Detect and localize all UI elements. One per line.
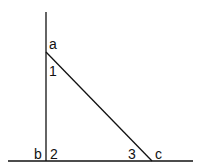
angle-label-2: 2 (50, 146, 58, 162)
point-label-c: c (155, 146, 162, 162)
angle-label-3: 3 (128, 146, 136, 162)
angle-label-1: 1 (49, 63, 57, 79)
point-label-b: b (34, 146, 42, 162)
geometry-diagram: a 1 b 2 3 c (0, 0, 200, 167)
hypotenuse-line (46, 52, 152, 161)
point-label-a: a (49, 36, 57, 52)
